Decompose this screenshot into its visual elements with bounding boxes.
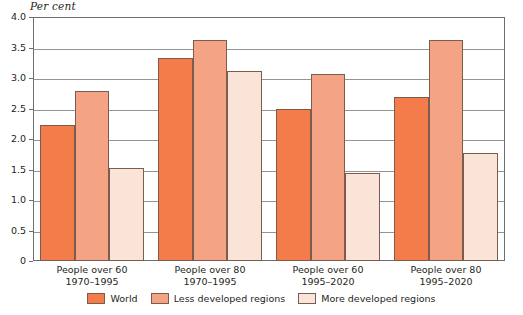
y-axis-tick-label: 3.5 [0,43,26,53]
y-axis-tick-label: 0 [0,256,26,266]
legend-item[interactable]: World [87,293,137,304]
y-axis-tick-label: 1.0 [0,195,26,205]
bar [193,40,228,261]
bars-layer [33,17,505,261]
legend-swatch [151,293,169,304]
bar [463,153,498,261]
x-axis-group-label: People over 601995–2020 [269,264,387,287]
bar [394,97,429,261]
y-axis-tick-label: 0.5 [0,226,26,236]
group-label-period: 1995–2020 [269,276,387,288]
legend-swatch [87,293,105,304]
bar [345,173,380,261]
bar [109,168,144,261]
x-axis-group-label: People over 801995–2020 [387,264,505,287]
legend-item[interactable]: Less developed regions [151,293,286,304]
bar-chart: Per cent 4.03.53.02.52.01.51.00.50 Peopl… [0,0,523,315]
legend-label: World [110,294,137,304]
y-axis-tick-label: 1.5 [0,165,26,175]
group-label-title: People over 80 [151,264,269,276]
chart-legend: WorldLess developed regionsMore develope… [0,293,523,304]
bar [158,58,193,261]
bar [276,109,311,262]
x-axis-group-label: People over 601970–1995 [33,264,151,287]
legend-item[interactable]: More developed regions [298,293,435,304]
y-axis-tick-label: 2.0 [0,134,26,144]
y-axis-tick-label: 3.0 [0,73,26,83]
y-axis-unit-label: Per cent [30,0,76,12]
group-label-period: 1995–2020 [387,276,505,288]
x-axis-group-labels: People over 601970–1995People over 80197… [33,262,505,292]
group-label-period: 1970–1995 [151,276,269,288]
y-axis-ticks: 4.03.53.02.52.01.51.00.50 [0,17,33,261]
bar [227,71,262,261]
y-axis-tick-label: 2.5 [0,104,26,114]
legend-label: Less developed regions [174,294,286,304]
group-label-title: People over 60 [33,264,151,276]
group-label-title: People over 80 [387,264,505,276]
legend-swatch [298,293,316,304]
bar [311,74,346,261]
bar [75,91,110,261]
bar [40,125,75,261]
bar [429,40,464,261]
x-axis-group-label: People over 801970–1995 [151,264,269,287]
y-axis-tick-label: 4.0 [0,12,26,22]
legend-label: More developed regions [321,294,435,304]
group-label-period: 1970–1995 [33,276,151,288]
group-label-title: People over 60 [269,264,387,276]
